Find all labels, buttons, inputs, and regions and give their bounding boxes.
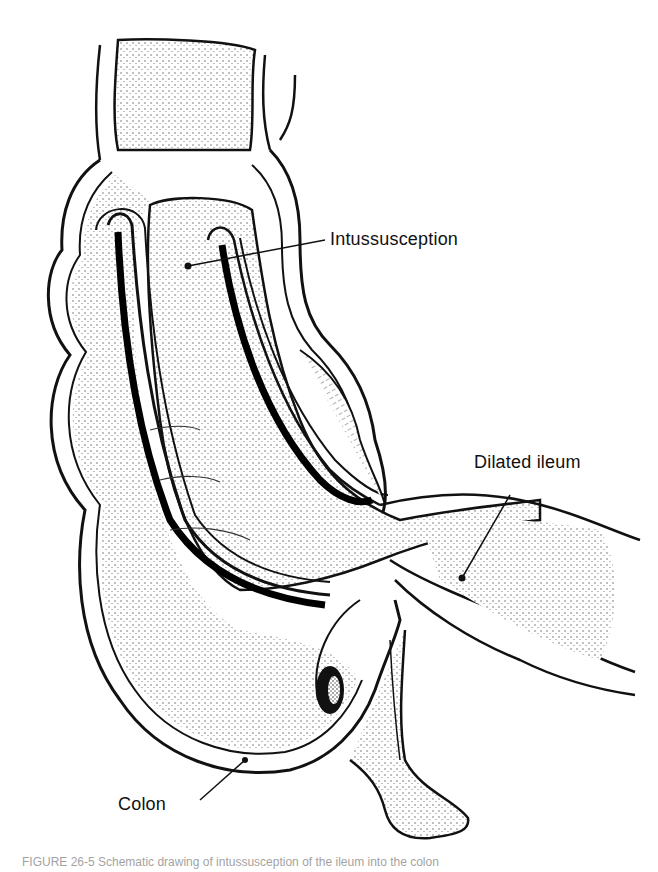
label-dilated-ileum: Dilated ileum — [474, 452, 581, 473]
label-intussusception: Intussusception — [330, 229, 458, 250]
label-colon: Colon — [118, 794, 166, 815]
figure-caption: FIGURE 26-5 Schematic drawing of intussu… — [22, 855, 439, 869]
